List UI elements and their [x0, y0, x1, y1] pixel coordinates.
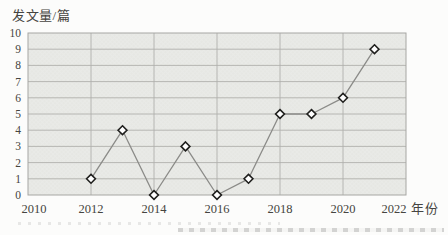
- y-tick-label: 1: [15, 173, 21, 185]
- y-tick-label: 6: [15, 92, 21, 104]
- y-tick-label: 10: [10, 27, 22, 39]
- chart-generated: 0123456789102010201220142016201820202022: [10, 27, 407, 216]
- y-tick-label: 9: [15, 43, 21, 55]
- y-tick-label: 0: [15, 189, 21, 201]
- y-tick-label: 3: [15, 140, 21, 152]
- x-tick-label: 2010: [22, 202, 47, 216]
- y-tick-label: 7: [15, 76, 21, 88]
- x-axis-unit-label: 年份: [411, 201, 438, 216]
- y-tick-label: 4: [15, 124, 21, 136]
- y-tick-label: 2: [15, 157, 21, 169]
- x-tick-label: 2012: [79, 202, 104, 216]
- x-tick-label: 2018: [268, 202, 293, 216]
- y-tick-label: 5: [15, 108, 21, 120]
- x-tick-label: 2020: [331, 202, 356, 216]
- y-tick-label: 8: [15, 59, 21, 71]
- chart-y-axis-title: 发文量/篇: [12, 8, 70, 23]
- chart-canvas: 0123456789102010201220142016201820202022…: [0, 0, 448, 235]
- x-tick-label: 2022: [382, 202, 407, 216]
- x-tick-label: 2016: [205, 202, 230, 216]
- figure: 0123456789102010201220142016201820202022…: [0, 0, 448, 235]
- x-tick-label: 2014: [142, 202, 168, 216]
